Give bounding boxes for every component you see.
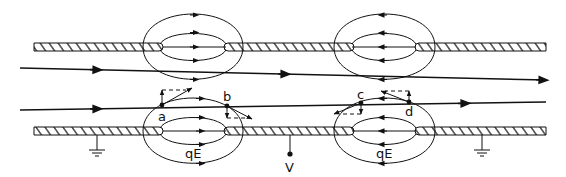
- bottom-electrode: [34, 127, 546, 135]
- point-c: c: [334, 87, 364, 114]
- lens-diagram: a b c d qE qE V: [0, 0, 566, 177]
- point-d-label: d: [405, 104, 413, 119]
- force-label-qE-right: qE: [376, 146, 392, 161]
- voltage-label: V: [285, 160, 294, 175]
- force-vectors-d: [381, 91, 409, 102]
- force-label-qE-left: qE: [185, 146, 201, 161]
- ground-right-icon: [474, 135, 490, 156]
- bottom-electrode-left: [34, 127, 163, 135]
- ground-left-icon: [89, 135, 105, 156]
- top-electrode-left: [34, 43, 163, 51]
- ray-upper: [20, 68, 546, 80]
- ray-lower: [20, 102, 546, 110]
- point-b-label: b: [223, 89, 231, 104]
- point-a-label: a: [158, 109, 166, 124]
- top-electrode: [34, 43, 546, 51]
- voltage-terminal: V: [285, 135, 294, 175]
- point-a: a: [158, 88, 192, 124]
- point-c-label: c: [357, 87, 364, 102]
- force-vectors-a: [162, 88, 192, 105]
